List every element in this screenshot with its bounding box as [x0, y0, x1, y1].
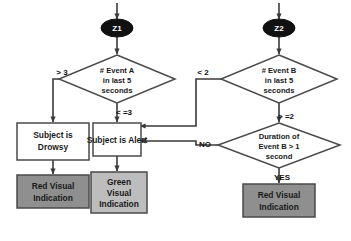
terminator-z2-label: Z2 — [274, 24, 284, 33]
indication-green[interactable]: Green Visual Indication — [91, 172, 147, 213]
state-subject-is-alert[interactable]: Subject is Alert — [87, 123, 148, 156]
terminator-z2[interactable]: Z2 — [263, 19, 295, 37]
indication-red-left[interactable]: Red Visual Indication — [17, 175, 89, 208]
edge-event-a-gt3-to-drowsy — [53, 79, 74, 122]
edge-label-yes: YES — [274, 173, 291, 182]
decision-event-b-line-2: in last 5 — [265, 76, 294, 85]
flowchart-canvas: Z1 Z2 # Event A in last 5 seconds # Even… — [0, 0, 351, 241]
decision-event-b-line-1: # Event B — [262, 66, 297, 75]
decision-duration-line-2: Event B > 1 — [258, 142, 300, 151]
decision-event-a-line-1: # Event A — [100, 66, 135, 75]
edge-label-gt3: > 3 — [56, 68, 68, 77]
decision-event-a-line-3: seconds — [102, 86, 133, 95]
indication-red-right-line-1: Red Visual — [258, 190, 301, 200]
decision-event-b-line-3: seconds — [264, 86, 295, 95]
indication-green-line-2: Visual — [107, 188, 132, 198]
edge-label-no: NO — [199, 140, 211, 149]
indication-red-left-line-1: Red Visual — [32, 181, 75, 191]
terminator-z1-label: Z1 — [112, 24, 122, 33]
decision-event-a-line-2: in last 5 — [103, 76, 132, 85]
indication-red-right[interactable]: Red Visual Indication — [243, 184, 315, 217]
state-subject-is-drowsy[interactable]: Subject is Drowsy — [17, 123, 89, 160]
decision-duration-line-3: second — [266, 152, 293, 161]
state-drowsy-line-1: Subject is — [33, 130, 73, 140]
terminator-z1[interactable]: Z1 — [101, 19, 133, 37]
edge-label-lt2: < 2 — [197, 68, 209, 77]
decision-event-b[interactable]: # Event B in last 5 seconds — [221, 55, 337, 103]
state-drowsy-line-2: Drowsy — [38, 142, 69, 152]
edge-label-lte3: < =3 — [116, 108, 133, 117]
edge-label-gte2: > =2 — [278, 112, 295, 121]
decision-event-a[interactable]: # Event A in last 5 seconds — [59, 55, 175, 103]
flowchart-svg: Z1 Z2 # Event A in last 5 seconds # Even… — [0, 0, 351, 241]
indication-green-line-1: Green — [107, 177, 131, 187]
decision-duration-event-b[interactable]: Duration of Event B > 1 second — [218, 123, 340, 168]
indication-red-right-line-2: Indication — [259, 202, 299, 212]
indication-green-line-3: Indication — [99, 199, 139, 209]
decision-duration-line-1: Duration of — [259, 132, 300, 141]
indication-red-left-line-2: Indication — [33, 193, 73, 203]
edge-duration-no-to-alert — [140, 141, 227, 145]
state-alert-line-1: Subject is Alert — [87, 135, 148, 145]
